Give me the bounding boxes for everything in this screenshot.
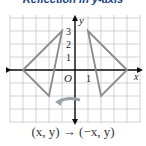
x-tick-1: 1 [86, 73, 91, 84]
axes [7, 18, 141, 122]
x-axis-label: x [133, 71, 139, 82]
original-triangle [23, 31, 62, 96]
origin-label: O [64, 72, 72, 84]
reflected-triangle [88, 31, 127, 96]
y-tick-2: 2 [66, 39, 71, 50]
y-tick-1: 1 [66, 52, 71, 63]
y-tick-3: 3 [66, 26, 71, 37]
y-axis-label: y [78, 14, 84, 26]
reflection-arrowhead-icon [55, 98, 62, 106]
transformation-rule: (x, y) → (−x, y) [0, 124, 146, 140]
